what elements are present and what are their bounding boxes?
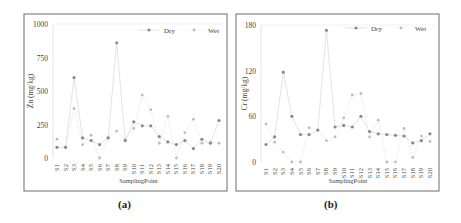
dry-marker — [149, 124, 152, 127]
x-tick-label: S10 — [130, 164, 137, 174]
x-tick-label: S13 — [155, 164, 162, 174]
x-tick-label: S3 — [70, 164, 77, 171]
y-tick-label: 750 — [37, 54, 49, 63]
wet-marker — [265, 123, 268, 126]
dry-marker — [64, 146, 67, 149]
x-tick-label: S9 — [121, 164, 128, 171]
wet-marker — [98, 157, 101, 160]
dry-marker — [299, 133, 302, 136]
wet-marker — [368, 135, 371, 138]
wet-marker — [299, 161, 302, 164]
dry-marker — [308, 133, 311, 136]
y-tick-label: 500 — [37, 87, 49, 96]
x-tick-label: S2 — [271, 168, 278, 175]
wet-marker — [290, 161, 293, 164]
wet-marker — [183, 131, 186, 134]
legend-dry-marker — [147, 28, 150, 31]
x-tick-label: S7 — [104, 163, 111, 171]
dry-marker — [290, 115, 293, 118]
y-tick-label: 180 — [245, 21, 257, 30]
dry-marker — [420, 139, 423, 142]
wet-marker — [192, 118, 195, 121]
dry-marker — [368, 130, 371, 133]
dry-marker — [72, 76, 75, 79]
x-tick-label: S19 — [417, 168, 424, 178]
legend-wet-marker — [400, 27, 403, 30]
x-tick-label: S1 — [262, 168, 269, 175]
dry-marker — [428, 132, 431, 135]
dry-marker — [273, 135, 276, 138]
x-tick-label: S12 — [147, 164, 154, 174]
dry-marker — [325, 29, 328, 32]
panel-a-label: (a) — [118, 198, 131, 210]
x-axis-label: SamplingPoint — [119, 177, 158, 184]
wet-marker — [81, 143, 84, 146]
legend-dry-label: Dry — [371, 25, 382, 33]
x-tick-label: S4 — [79, 163, 86, 171]
y-axis-label: Cr (mg/kg) — [240, 76, 249, 110]
dry-marker — [385, 133, 388, 136]
dry-marker — [209, 142, 212, 145]
y-axis-label: Zn (mg/kg) — [26, 73, 35, 108]
dry-marker — [166, 140, 169, 143]
x-tick-label: S11 — [138, 164, 145, 174]
x-tick-label: S19 — [206, 164, 213, 174]
x-tick-label: S15 — [172, 164, 179, 174]
wet-marker — [360, 92, 363, 95]
dry-marker — [217, 119, 220, 122]
dry-marker — [282, 71, 285, 74]
dry-marker — [81, 136, 84, 139]
dry-marker — [333, 125, 336, 128]
x-tick-label: S6 — [305, 167, 312, 175]
x-tick-label: S14 — [164, 163, 171, 174]
legend-dry-label: Dry — [164, 27, 175, 35]
dry-marker — [394, 134, 397, 137]
dry-marker — [124, 139, 127, 142]
figure-frame — [236, 14, 439, 191]
x-tick-label: S20 — [215, 164, 222, 174]
wet-marker — [201, 142, 204, 145]
wet-marker — [141, 94, 144, 97]
x-tick-label: S8 — [113, 164, 120, 171]
dry-marker — [55, 146, 58, 149]
dry-marker — [316, 128, 319, 131]
y-tick-label: 60 — [249, 112, 257, 121]
cr-chart: 060120180Cr (mg/kg)S1S2S3S4S5S6S7S8S9S10… — [230, 0, 461, 223]
x-tick-label: S2 — [62, 164, 69, 171]
x-tick-label: S18 — [409, 168, 416, 178]
wet-marker — [411, 156, 414, 159]
x-tick-label: S15 — [383, 168, 390, 178]
wet-marker — [158, 142, 161, 145]
x-tick-label: S17 — [189, 163, 196, 174]
wet-marker — [342, 116, 345, 119]
dry-marker — [264, 143, 267, 146]
y-tick-label: 120 — [245, 67, 257, 76]
x-tick-label: S4 — [288, 167, 295, 175]
wet-marker — [132, 127, 135, 130]
dry-marker — [351, 125, 354, 128]
x-tick-label: S5 — [87, 164, 94, 171]
wet-marker — [115, 130, 118, 133]
dry-marker — [132, 120, 135, 123]
wet-marker — [429, 140, 432, 143]
wet-marker — [325, 139, 328, 142]
x-tick-label: S18 — [198, 164, 205, 174]
wet-marker — [377, 119, 380, 122]
wet-marker — [420, 135, 423, 138]
y-tick-label: 0 — [252, 158, 256, 167]
wet-marker — [273, 141, 276, 144]
legend-wet-label: Wet — [208, 27, 219, 35]
x-tick-label: S7 — [314, 167, 321, 175]
wet-marker — [394, 161, 397, 164]
dry-marker — [175, 143, 178, 146]
wet-marker — [90, 134, 93, 137]
wet-marker — [351, 94, 354, 97]
x-tick-label: S5 — [297, 168, 304, 175]
x-tick-label: S17 — [400, 167, 407, 178]
wet-marker — [218, 142, 221, 145]
dry-marker — [377, 132, 380, 135]
legend-dry-marker — [354, 26, 357, 29]
dry-marker — [98, 143, 101, 146]
wet-marker — [166, 115, 169, 118]
zn-chart: 02505007501000Zn (mg/kg)S1S2S3S4S5S6S7S8… — [0, 0, 230, 223]
